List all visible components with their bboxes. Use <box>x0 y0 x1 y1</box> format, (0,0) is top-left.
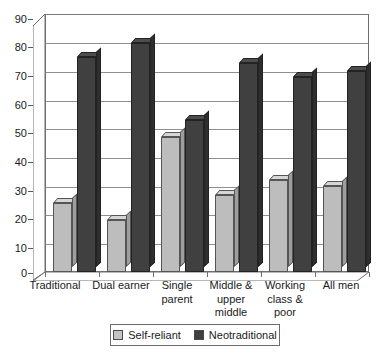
bar-single-parent-neotraditional[interactable] <box>185 120 204 272</box>
dark-gray-swatch-icon <box>194 330 204 340</box>
bar-chart: 90 80 70 60 50 40 30 20 10 0 <box>0 0 383 354</box>
x-axis-tick <box>369 272 370 277</box>
bar-middle-upper-middle-neotraditional[interactable] <box>239 63 258 272</box>
bar-front-face <box>215 195 234 272</box>
x-label-working-class-poor: Working class & poor <box>254 279 316 320</box>
y-tick-label: 80 <box>15 42 27 53</box>
bar-dual-earner-self-reliant[interactable] <box>107 220 126 272</box>
y-tick-label: 10 <box>15 243 27 254</box>
bar-side-face <box>96 47 101 267</box>
y-axis-tick <box>28 19 33 20</box>
plot-wrapper: 90 80 70 60 50 40 30 20 10 0 <box>0 0 383 290</box>
bar-front-face <box>185 120 204 272</box>
x-axis-tick <box>153 272 154 277</box>
y-axis: 90 80 70 60 50 40 30 20 10 0 <box>0 0 33 290</box>
bar-front-face <box>131 43 150 272</box>
bar-front-face <box>347 71 366 272</box>
bar-working-class-poor-neotraditional[interactable] <box>293 77 312 272</box>
bar-front-face <box>293 77 312 272</box>
bar-traditional-self-reliant[interactable] <box>53 203 72 272</box>
bar-side-face <box>312 68 317 267</box>
x-axis-tick <box>315 272 316 277</box>
bar-group-all-men <box>321 14 375 272</box>
bar-side-face <box>204 111 209 267</box>
bar-front-face <box>161 137 180 272</box>
y-axis-tick <box>28 47 33 48</box>
bar-all-men-neotraditional[interactable] <box>347 71 366 272</box>
y-tick-label: 30 <box>15 186 27 197</box>
bar-group-single-parent <box>159 14 213 272</box>
y-tick-label: 90 <box>15 14 27 25</box>
bars-layer <box>45 14 369 272</box>
bar-middle-upper-middle-self-reliant[interactable] <box>215 195 234 272</box>
y-axis-tick <box>28 162 33 163</box>
bar-side-face <box>366 62 371 267</box>
bar-traditional-neotraditional[interactable] <box>77 57 96 272</box>
legend-label: Self-reliant <box>128 330 181 341</box>
bar-all-men-self-reliant[interactable] <box>323 186 342 272</box>
y-tick-label: 50 <box>15 128 27 139</box>
x-axis-tick <box>207 272 208 277</box>
y-tick-label: 60 <box>15 100 27 111</box>
legend: Self-reliant Neotraditional <box>110 324 280 346</box>
bar-front-face <box>107 220 126 272</box>
y-axis-tick <box>28 191 33 192</box>
bar-front-face <box>323 186 342 272</box>
bar-group-dual-earner <box>105 14 159 272</box>
bar-dual-earner-neotraditional[interactable] <box>131 43 150 272</box>
legend-item-neotraditional[interactable]: Neotraditional <box>194 330 277 341</box>
bar-front-face <box>53 203 72 272</box>
bar-working-class-poor-self-reliant[interactable] <box>269 180 288 272</box>
y-axis-tick <box>28 219 33 220</box>
y-axis-tick <box>28 248 33 249</box>
y-tick-label: 70 <box>15 71 27 82</box>
x-label-all-men: All men <box>310 279 372 293</box>
bar-front-face <box>77 57 96 272</box>
bar-side-face <box>150 33 155 267</box>
axis-depth-wall <box>33 14 45 280</box>
y-axis-tick <box>28 105 33 106</box>
x-axis-tick <box>261 272 262 277</box>
bar-side-face <box>258 53 263 267</box>
bar-group-middle-upper-middle <box>213 14 267 272</box>
y-tick-label: 0 <box>21 268 27 279</box>
y-axis-tick <box>28 76 33 77</box>
light-gray-swatch-icon <box>113 330 123 340</box>
bar-group-traditional <box>51 14 105 272</box>
legend-item-self-reliant[interactable]: Self-reliant <box>113 330 181 341</box>
legend-label: Neotraditional <box>209 330 277 341</box>
x-label-traditional: Traditional <box>22 279 88 293</box>
bar-front-face <box>269 180 288 272</box>
x-axis-tick <box>45 272 46 277</box>
bar-group-working-class-poor <box>267 14 321 272</box>
y-axis-tick <box>28 133 33 134</box>
bar-single-parent-self-reliant[interactable] <box>161 137 180 272</box>
y-tick-label: 40 <box>15 157 27 168</box>
x-axis-tick <box>99 272 100 277</box>
bar-front-face <box>239 63 258 272</box>
y-tick-label: 20 <box>15 214 27 225</box>
